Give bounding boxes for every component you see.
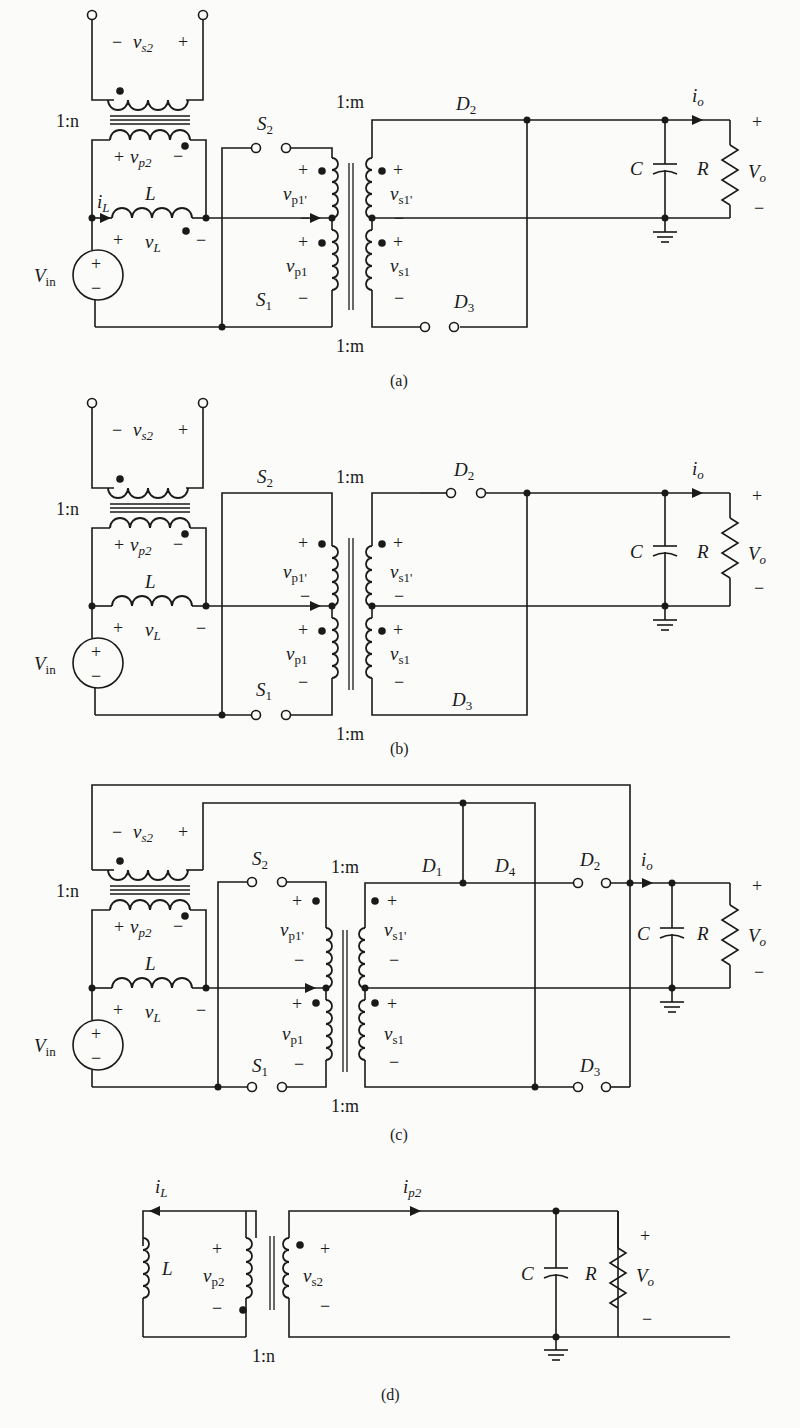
svg-text:+: +	[113, 230, 123, 250]
svg-text:−: −	[112, 32, 122, 52]
resistor-R: R + Vo −	[696, 112, 767, 218]
svg-text:vs1: vs1	[390, 643, 410, 667]
svg-text:−: −	[298, 288, 308, 308]
svg-text:ip2: ip2	[403, 1176, 422, 1200]
svg-text:iL: iL	[155, 1176, 168, 1200]
svg-text:+: +	[178, 32, 188, 52]
svg-text:+: +	[292, 891, 302, 911]
svg-text:+: +	[212, 1239, 222, 1259]
svg-text:io: io	[692, 458, 704, 482]
svg-text:L: L	[144, 571, 156, 592]
svg-text:R: R	[696, 158, 709, 179]
svg-text:vp1: vp1	[286, 255, 307, 279]
switch-S1: S1	[248, 1055, 327, 1092]
svg-text:S1: S1	[252, 1055, 268, 1079]
svg-text:1:n: 1:n	[56, 111, 79, 131]
svg-text:vp1: vp1	[286, 643, 307, 667]
svg-text:Vo: Vo	[748, 543, 767, 567]
svg-text:−: −	[173, 146, 183, 166]
svg-text:+: +	[387, 891, 397, 911]
svg-text:vp1': vp1'	[283, 183, 307, 207]
circuit-figure: − vs2 + 1:n + vp2 − iL L + vL −	[0, 0, 800, 1428]
svg-text:vs2: vs2	[303, 1265, 323, 1289]
svg-text:−: −	[642, 1309, 652, 1329]
svg-text:−: −	[300, 586, 310, 606]
diode-D4: D4	[494, 855, 516, 879]
svg-text:+: +	[752, 112, 762, 132]
svg-text:D3: D3	[579, 1055, 600, 1079]
svg-text:+: +	[114, 147, 124, 167]
svg-text:1:n: 1:n	[56, 881, 79, 901]
svg-text:D2: D2	[453, 459, 474, 483]
voltage-source-vin: + − Vin	[34, 218, 123, 327]
svg-text:S1: S1	[256, 289, 272, 313]
svg-text:Vo: Vo	[636, 1265, 655, 1289]
svg-text:L: L	[161, 1258, 173, 1279]
svg-text:1:n: 1:n	[252, 1346, 275, 1366]
svg-text:−: −	[394, 288, 404, 308]
svg-text:1:m: 1:m	[331, 1096, 359, 1116]
svg-text:−: −	[91, 666, 101, 686]
svg-text:1:m: 1:m	[336, 92, 364, 112]
svg-text:vp2: vp2	[130, 146, 152, 170]
svg-text:vp1': vp1'	[280, 919, 304, 943]
svg-text:vs1': vs1'	[390, 183, 412, 207]
circuit-c: − vs2 + 1:n + vp2 − L + vL − + − Vin S2	[34, 785, 767, 1144]
svg-text:C: C	[630, 158, 643, 179]
diode-D2: D2	[447, 459, 731, 498]
caption-c: (c)	[390, 1126, 408, 1144]
svg-text:−: −	[754, 198, 764, 218]
svg-text:+: +	[178, 420, 188, 440]
svg-text:io: io	[641, 849, 653, 873]
svg-text:−: −	[112, 420, 122, 440]
inductor-L	[143, 1238, 149, 1298]
svg-text:+: +	[387, 994, 397, 1014]
svg-text:−: −	[298, 672, 308, 692]
svg-text:vL: vL	[145, 1001, 161, 1025]
svg-text:1:n: 1:n	[56, 499, 79, 519]
svg-text:1:m: 1:m	[336, 724, 364, 744]
diode-D2: D2	[455, 93, 476, 117]
svg-text:−: −	[173, 916, 183, 936]
svg-text:Vin: Vin	[34, 265, 56, 289]
capacitor-C: C	[630, 117, 677, 243]
switch-S2: S2	[248, 848, 327, 928]
svg-text:S2: S2	[252, 848, 268, 872]
svg-text:+: +	[298, 620, 308, 640]
inductor-L: iL L + vL −	[89, 183, 210, 255]
switch-S1: S1	[252, 678, 333, 720]
circuit-a: − vs2 + 1:n + vp2 − iL L + vL −	[34, 11, 767, 391]
svg-text:vs2: vs2	[133, 821, 153, 845]
svg-text:+: +	[393, 232, 403, 252]
svg-text:vL: vL	[145, 231, 161, 255]
svg-text:S2: S2	[257, 466, 273, 490]
svg-text:+: +	[292, 994, 302, 1014]
svg-text:+: +	[113, 618, 123, 638]
svg-text:−: −	[112, 822, 122, 842]
svg-text:R: R	[696, 923, 709, 944]
svg-text:−: −	[196, 1000, 206, 1020]
svg-text:+: +	[298, 232, 308, 252]
switch-S2: S2	[252, 113, 333, 158]
svg-text:vp2: vp2	[130, 916, 152, 940]
svg-text:L: L	[144, 953, 156, 974]
svg-text:−: −	[212, 1298, 222, 1318]
svg-text:+: +	[640, 1226, 650, 1246]
svg-text:vs1: vs1	[384, 1023, 404, 1047]
svg-text:1:m: 1:m	[336, 467, 364, 487]
capacitor-C: C	[521, 1211, 568, 1337]
main-transformer: 1:m 1:m + vp1' − + vp1 S1 − + vs1' − + v…	[256, 92, 525, 356]
svg-text:+: +	[114, 535, 124, 555]
svg-text:D2: D2	[455, 93, 476, 117]
svg-text:+: +	[178, 822, 188, 842]
svg-text:vp2: vp2	[203, 1265, 224, 1289]
svg-text:S2: S2	[257, 113, 273, 137]
resistor-R: R + Vo −	[584, 1211, 655, 1329]
svg-text:iL: iL	[97, 191, 110, 215]
svg-text:vs1': vs1'	[390, 561, 412, 585]
svg-text:vL: vL	[145, 619, 161, 643]
svg-text:vs1': vs1'	[384, 919, 406, 943]
svg-text:Vo: Vo	[748, 161, 767, 185]
svg-text:−: −	[300, 208, 310, 228]
svg-text:−: −	[389, 1052, 399, 1072]
